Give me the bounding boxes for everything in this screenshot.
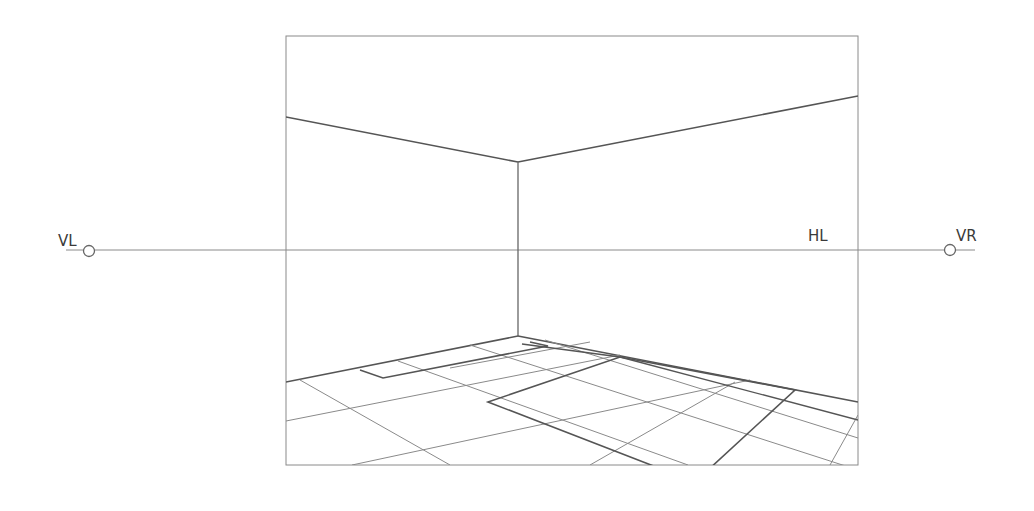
ceiling-edge-left: [286, 117, 518, 162]
ceiling-edge-right: [518, 96, 858, 162]
rug-large: [488, 357, 795, 482]
floor-grid-right: [300, 340, 858, 470]
floor-grid-left: [286, 342, 858, 465]
label-vanishing-left: VL: [58, 232, 77, 250]
rug-small: [360, 342, 548, 378]
rug-edge-line: [620, 357, 858, 420]
vanishing-point-left: [84, 246, 95, 257]
vanishing-point-right: [945, 245, 956, 256]
label-horizon-line: HL: [808, 227, 828, 245]
perspective-diagram: [0, 0, 1034, 511]
label-vanishing-right: VR: [956, 227, 977, 245]
